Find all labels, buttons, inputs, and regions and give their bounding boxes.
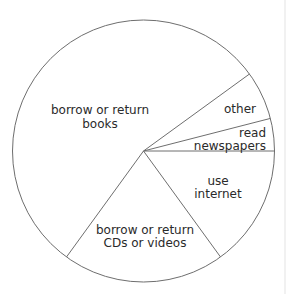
slice-label-cds: borrow or return CDs or videos (96, 223, 194, 250)
edge-strip (284, 0, 286, 294)
label-internet-line1: use (207, 174, 228, 188)
label-other: other (224, 102, 256, 116)
pie-chart: borrow or return books other read newspa… (0, 0, 286, 294)
label-cds-line2: CDs or videos (104, 236, 187, 250)
label-internet-line2: internet (194, 187, 242, 201)
label-books-line1: borrow or return (51, 103, 149, 117)
label-newspapers-line2: newspapers (194, 139, 266, 153)
label-cds-line1: borrow or return (96, 223, 194, 237)
label-books-line2: books (82, 117, 118, 131)
slice-label-other: other (224, 102, 256, 116)
label-newspapers-line1: read (239, 126, 266, 140)
